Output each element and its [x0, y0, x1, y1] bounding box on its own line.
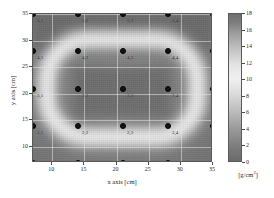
x-axis-tick-label: 20	[113, 166, 119, 172]
data-point-marker[interactable]	[120, 86, 126, 92]
figure-canvas: 5,15,25,35,45,54,14,24,34,44,53,13,23,33…	[0, 0, 274, 198]
x-axis-tick-label: 30	[177, 166, 183, 172]
data-point-label: 4,2	[82, 55, 88, 60]
colorbar-gradient	[228, 13, 242, 162]
data-point-marker[interactable]	[120, 123, 126, 129]
y-axis-tick-label: 10	[16, 143, 28, 149]
colorbar-tick	[242, 63, 245, 64]
data-point-marker[interactable]	[165, 86, 171, 92]
data-point-marker[interactable]	[120, 48, 126, 54]
x-axis-tick	[51, 162, 52, 165]
data-point-label: 3,3	[127, 92, 133, 97]
gridline-horizontal	[33, 94, 211, 95]
gridline-horizontal	[33, 67, 211, 68]
colorbar-tick	[242, 79, 245, 80]
data-point-marker[interactable]	[32, 160, 36, 162]
data-point-marker[interactable]	[210, 48, 212, 54]
y-axis-tick	[29, 146, 32, 147]
y-axis-tick	[29, 119, 32, 120]
data-point-label: 4,3	[127, 55, 133, 60]
data-point-label: 2,2	[82, 129, 88, 134]
data-point-label: 2,1	[37, 129, 43, 134]
x-axis-label: x axis [cm]	[32, 178, 212, 185]
data-point-marker[interactable]	[75, 86, 81, 92]
colorbar-tick	[242, 112, 245, 113]
data-point-marker[interactable]	[165, 123, 171, 129]
data-point-label: 5,2	[82, 18, 88, 23]
colorbar-tick-label: 8	[246, 93, 249, 99]
data-point-label: 3,2	[82, 92, 88, 97]
y-axis-tick	[29, 66, 32, 67]
data-point-label: 5,3	[127, 18, 133, 23]
x-axis-tick-label: 35	[209, 166, 215, 172]
y-axis-tick-label: 35	[16, 10, 28, 16]
data-point-label: 5,1	[37, 18, 43, 23]
data-point-label: 3,4	[172, 92, 178, 97]
colorbar-tick-label: 12	[246, 60, 252, 66]
x-axis-tick	[116, 162, 117, 165]
colorbar-unit-label: [g/cm2]	[224, 170, 272, 178]
colorbar-tick-label: 4	[246, 126, 249, 132]
colorbar-tick-label: 10	[246, 76, 252, 82]
colorbar-tick	[242, 129, 245, 130]
data-point-marker[interactable]	[210, 123, 212, 129]
y-axis-tick	[29, 13, 32, 14]
data-point-label: 2,4	[172, 129, 178, 134]
data-point-label: 5,4	[172, 18, 178, 23]
plot-area: 5,15,25,35,45,54,14,24,34,44,53,13,23,33…	[32, 13, 212, 162]
x-axis-tick	[212, 162, 213, 165]
y-axis-tick-label: 25	[16, 63, 28, 69]
colorbar-tick-label: 2	[246, 142, 249, 148]
gridline-vertical	[52, 14, 53, 161]
y-axis-tick-label: 15	[16, 116, 28, 122]
gridline-horizontal	[33, 41, 211, 42]
colorbar-tick	[242, 96, 245, 97]
data-point-label: 4,4	[172, 55, 178, 60]
data-point-marker[interactable]	[75, 160, 81, 162]
gridline-vertical	[181, 14, 182, 161]
data-point-marker[interactable]	[75, 48, 81, 54]
x-axis-tick-label: 15	[80, 166, 86, 172]
y-axis-tick-label: 30	[16, 37, 28, 43]
data-point-marker[interactable]	[210, 13, 212, 17]
x-axis-tick	[148, 162, 149, 165]
gridline-vertical	[149, 14, 150, 161]
gridline-vertical	[117, 14, 118, 161]
colorbar-tick	[242, 162, 245, 163]
data-point-marker[interactable]	[75, 123, 81, 129]
y-axis-tick	[29, 93, 32, 94]
x-axis-tick	[83, 162, 84, 165]
data-point-marker[interactable]	[165, 48, 171, 54]
data-point-label: 4,1	[37, 55, 43, 60]
gridline-vertical	[84, 14, 85, 161]
data-point-marker[interactable]	[210, 86, 212, 92]
data-point-marker[interactable]	[165, 160, 171, 162]
x-axis-tick-label: 25	[145, 166, 151, 172]
colorbar-tick-label: 6	[246, 109, 249, 115]
x-axis-tick-label: 10	[48, 166, 54, 172]
y-axis-label: y axis [cm]	[9, 61, 16, 121]
gridline-horizontal	[33, 120, 211, 121]
colorbar-tick	[242, 30, 245, 31]
data-point-label: 3,1	[37, 92, 43, 97]
colorbar	[228, 13, 242, 162]
y-axis-tick-label: 20	[16, 90, 28, 96]
colorbar-tick	[242, 13, 245, 14]
colorbar-tick-label: 0	[246, 159, 249, 165]
gridline-horizontal	[33, 147, 211, 148]
colorbar-tick	[242, 145, 245, 146]
x-axis-tick	[180, 162, 181, 165]
y-axis-tick	[29, 40, 32, 41]
colorbar-tick	[242, 46, 245, 47]
colorbar-tick-label: 18	[246, 10, 252, 16]
data-point-marker[interactable]	[120, 160, 126, 162]
colorbar-tick-label: 16	[246, 27, 252, 33]
data-point-label: 2,3	[127, 129, 133, 134]
colorbar-tick-label: 14	[246, 43, 252, 49]
